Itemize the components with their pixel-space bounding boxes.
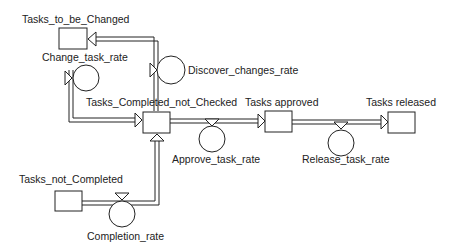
rate-release-task[interactable] — [328, 122, 354, 156]
label-tasks-completed-not-checked: Tasks_Completed_not_Checked — [86, 96, 237, 108]
valve-icon — [115, 193, 129, 200]
label-discover-changes-rate: Discover_changes_rate — [188, 64, 298, 76]
label-tasks-not-completed: Tasks_not_Completed — [19, 173, 123, 185]
label-change-task-rate: Change_task_rate — [42, 51, 128, 63]
label-approve-task-rate: Approve_task_rate — [172, 153, 260, 165]
stock-tasks-to-be-changed[interactable] — [59, 28, 87, 49]
label-tasks-released: Tasks released — [366, 96, 436, 108]
stock-tasks-completed-not-checked[interactable] — [143, 112, 170, 133]
valve-icon — [334, 122, 348, 129]
stock-tasks-not-completed[interactable] — [55, 191, 82, 211]
rate-completion[interactable] — [109, 193, 135, 227]
label-tasks-to-be-changed: Tasks_to_be_Changed — [22, 13, 130, 25]
rate-change-task[interactable] — [65, 65, 99, 91]
stock-tasks-released[interactable] — [388, 112, 415, 133]
label-release-task-rate: Release_task_rate — [302, 153, 390, 165]
rate-approve-task[interactable] — [199, 119, 225, 152]
rate-discover-changes[interactable] — [150, 56, 185, 84]
label-tasks-approved: Tasks approved — [245, 96, 319, 108]
label-completion-rate: Completion_rate — [87, 230, 164, 242]
stock-flow-diagram: Tasks_to_be_Changed Change_task_rate Dis… — [0, 0, 450, 252]
stock-tasks-approved[interactable] — [265, 111, 292, 132]
